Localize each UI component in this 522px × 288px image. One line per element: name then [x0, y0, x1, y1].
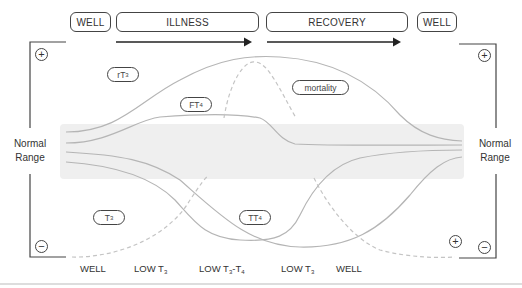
- ft4-tag-sub: 4: [200, 102, 203, 108]
- normal-range-label-left: Normal Range: [5, 137, 55, 165]
- rt3-tag: rT3: [107, 67, 139, 82]
- tt4-tag-sub: 4: [259, 215, 262, 221]
- diagram-canvas: [0, 0, 522, 288]
- bottom-label-low-t3-t4-text: LOW T: [199, 263, 229, 274]
- phase-well-start: WELL: [70, 12, 111, 32]
- bottom-label-low-t3-recovery-text: LOW T: [281, 263, 311, 274]
- t3-tag: T3: [93, 210, 125, 225]
- bottom-label-low-t3-recovery-sub: 3: [311, 269, 314, 275]
- normal-range-left-line1: Normal: [5, 137, 55, 151]
- plus-icon-top-right: +: [478, 49, 491, 62]
- minus-icon-bottom-left: −: [35, 240, 48, 253]
- bottom-label-well-end-text: WELL: [336, 263, 362, 274]
- rt3-tag-sub: 3: [125, 72, 128, 78]
- normal-range-left-line2: Range: [5, 151, 55, 165]
- low-dashed-curve-right: [314, 178, 455, 257]
- tt4-tag: TT4: [239, 210, 271, 225]
- bottom-label-well-start-text: WELL: [80, 263, 106, 274]
- ft4-tag: FT4: [180, 97, 212, 112]
- illness-arrowhead: [244, 38, 252, 47]
- recovery-arrowhead: [393, 38, 401, 47]
- bottom-label-low-t3-illness-sub: 3: [164, 269, 167, 275]
- bottom-label-low-t3-t4-tail-sub: 4: [241, 269, 244, 275]
- rt3-tag-main: rT: [117, 70, 125, 80]
- ft4-tag-main: FT: [189, 100, 199, 110]
- bottom-label-well-end: WELL: [336, 263, 362, 274]
- phase-well-end: WELL: [417, 12, 457, 32]
- plus-icon-top-left: +: [35, 48, 48, 61]
- t3-tag-sub: 3: [110, 215, 113, 221]
- phase-recovery: RECOVERY: [266, 12, 408, 32]
- bottom-label-low-t3-illness: LOW T3: [134, 263, 167, 275]
- mortality-dashed-curve: [224, 62, 296, 118]
- bottom-label-low-t3-recovery: LOW T3: [281, 263, 314, 275]
- bottom-label-low-t3-t4-tail: -T: [232, 263, 241, 274]
- tt4-tag-main: TT: [248, 213, 258, 223]
- mortality-tag-main: mortality: [304, 83, 336, 93]
- bottom-label-low-t3-illness-text: LOW T: [134, 263, 164, 274]
- bottom-label-low-t3-t4: LOW T3-T4: [199, 263, 245, 275]
- bottom-label-well-start: WELL: [80, 263, 106, 274]
- normal-range-right-line2: Range: [470, 151, 520, 165]
- phase-illness: ILLNESS: [116, 12, 259, 32]
- mortality-tag: mortality: [292, 80, 349, 95]
- minus-icon-bottom-right: −: [478, 241, 491, 254]
- normal-range-label-right: Normal Range: [470, 137, 520, 165]
- plus-icon-bottom-right: +: [449, 235, 462, 248]
- normal-range-right-line1: Normal: [470, 137, 520, 151]
